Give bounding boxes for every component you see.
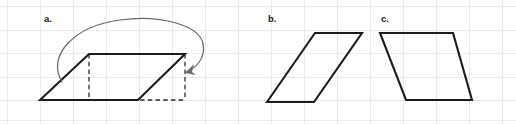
figure-background (0, 0, 516, 124)
parallelogram-figure: a. b. c. (0, 0, 516, 124)
panel-label-b: b. (268, 13, 276, 24)
panel-label-a: a. (44, 13, 52, 24)
figure-container: a. b. c. (0, 0, 516, 124)
panel-label-c: c. (381, 13, 389, 24)
